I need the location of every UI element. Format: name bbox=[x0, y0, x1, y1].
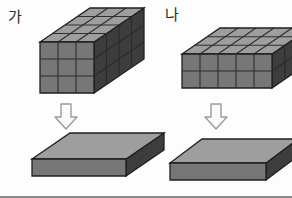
label-na: 나 bbox=[165, 6, 179, 23]
down-arrow-icon bbox=[205, 104, 227, 129]
rectangular-prism-ga bbox=[40, 8, 144, 93]
label-ga: 가 bbox=[8, 8, 22, 25]
prism-ga-front-face bbox=[40, 42, 94, 93]
flattened-slab-ga bbox=[32, 133, 164, 176]
slab-na-front-face bbox=[170, 163, 266, 180]
down-arrow-ga bbox=[55, 104, 77, 129]
group-ga: 가 bbox=[8, 8, 164, 176]
group-na: 나 bbox=[165, 6, 292, 180]
slab-ga-front-face bbox=[32, 159, 126, 176]
figure-canvas: 가 bbox=[0, 0, 292, 198]
down-arrow-icon bbox=[55, 104, 77, 129]
rectangular-prism-na bbox=[182, 28, 292, 88]
down-arrow-na bbox=[205, 104, 227, 129]
bottom-divider bbox=[0, 196, 292, 198]
flattened-slab-na bbox=[170, 139, 292, 180]
